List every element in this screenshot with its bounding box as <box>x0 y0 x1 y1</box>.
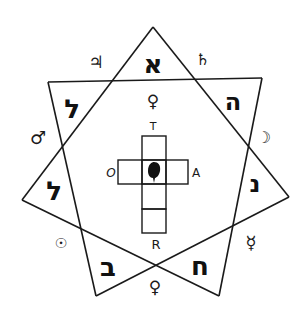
cross-cell-left <box>118 160 142 184</box>
hebrew-letter-right: נ <box>250 170 261 198</box>
hebrew-letter-top: א <box>144 49 163 79</box>
hebrew-letter-upper-left: ל <box>64 94 80 124</box>
jupiter-icon: ♃ <box>88 52 103 72</box>
moon-icon: ☽ <box>257 128 271 147</box>
venus-icon-bottom: ♀ <box>149 277 161 297</box>
center-blob-icon <box>148 162 160 183</box>
star-edge <box>153 27 289 197</box>
cross-cell-bottom <box>142 209 166 233</box>
tarot-cross <box>118 136 188 233</box>
cross-cell-top <box>142 136 166 160</box>
saturn-icon: ♄ <box>196 50 210 69</box>
cross-cell-right <box>166 160 188 184</box>
star-edge <box>96 197 289 296</box>
cross-label-bottom: R <box>151 237 160 252</box>
hebrew-letter-upper-right: ה <box>225 88 242 116</box>
sun-icon: ☉ <box>55 235 68 251</box>
cross-label-top: T <box>149 120 157 133</box>
cross-label-left: O <box>106 166 115 180</box>
heptagram-diagram: א ה נ ח ב ל ל ♃ ♄ ☽ ☿ ♀ ☉ ♂ ♀ T O A R <box>0 0 307 316</box>
hebrew-letter-left: ל <box>46 176 62 206</box>
venus-icon-center: ♀ <box>147 91 159 111</box>
hebrew-letter-bottom-left: ב <box>100 252 116 282</box>
hebrew-letter-bottom-right: ח <box>191 251 209 281</box>
cross-label-right: A <box>192 166 201 180</box>
cross-cell-lower <box>142 184 166 209</box>
mars-icon: ♂ <box>30 127 46 148</box>
mercury-icon: ☿ <box>245 232 256 253</box>
